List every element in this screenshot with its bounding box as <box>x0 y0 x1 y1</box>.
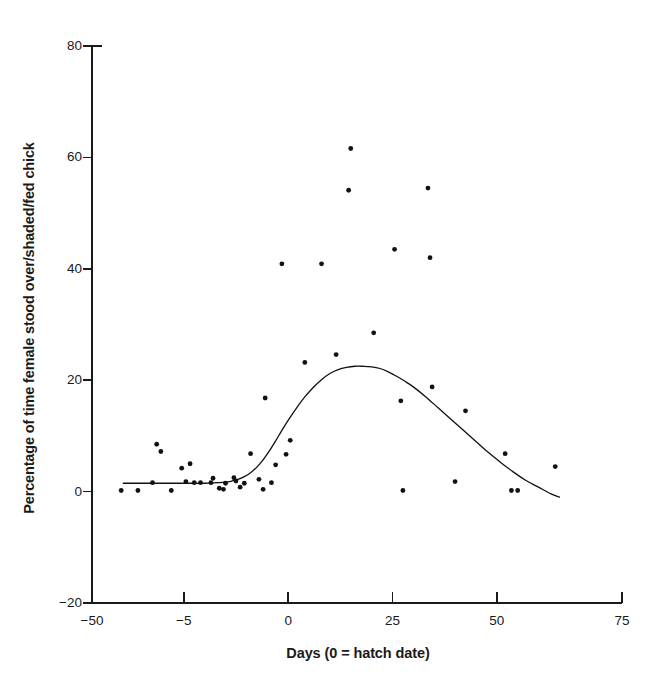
data-point <box>263 396 268 401</box>
data-point <box>319 261 324 266</box>
data-point <box>348 146 353 151</box>
data-point <box>192 480 197 485</box>
data-point <box>257 477 262 482</box>
data-point <box>269 480 274 485</box>
data-point <box>503 451 508 456</box>
data-point <box>284 452 289 457</box>
data-point <box>273 462 278 467</box>
data-point <box>288 438 293 443</box>
data-point <box>401 488 406 493</box>
data-point <box>179 466 184 471</box>
data-point <box>184 479 189 484</box>
data-point <box>463 408 468 413</box>
data-point <box>209 480 214 485</box>
data-point <box>234 479 239 484</box>
data-point <box>188 461 193 466</box>
data-point <box>428 255 433 260</box>
data-point <box>136 488 141 493</box>
data-point <box>334 352 339 357</box>
axes-lines <box>92 46 622 603</box>
data-point <box>371 330 376 335</box>
data-point <box>150 480 155 485</box>
data-point <box>119 488 124 493</box>
data-point <box>426 186 431 191</box>
data-point <box>392 247 397 252</box>
data-point <box>223 481 228 486</box>
data-point <box>509 488 514 493</box>
data-point <box>211 476 216 481</box>
figure-container: Percentage of time female stood over/sha… <box>0 0 662 694</box>
data-point <box>169 488 174 493</box>
data-points <box>119 146 558 493</box>
data-point <box>261 487 266 492</box>
data-point <box>302 360 307 365</box>
data-point <box>238 485 243 490</box>
data-point <box>553 464 558 469</box>
data-point <box>398 398 403 403</box>
data-point <box>430 384 435 389</box>
data-point <box>346 188 351 193</box>
data-point <box>217 486 222 491</box>
fit-curve <box>123 366 559 497</box>
data-point <box>279 261 284 266</box>
data-point <box>198 480 203 485</box>
data-point <box>248 451 253 456</box>
data-point <box>221 487 226 492</box>
data-point <box>242 481 247 486</box>
axis-ticks <box>83 46 497 603</box>
data-point <box>158 449 163 454</box>
data-point <box>453 479 458 484</box>
plot-area <box>0 0 662 694</box>
data-point <box>154 442 159 447</box>
data-point <box>515 488 520 493</box>
